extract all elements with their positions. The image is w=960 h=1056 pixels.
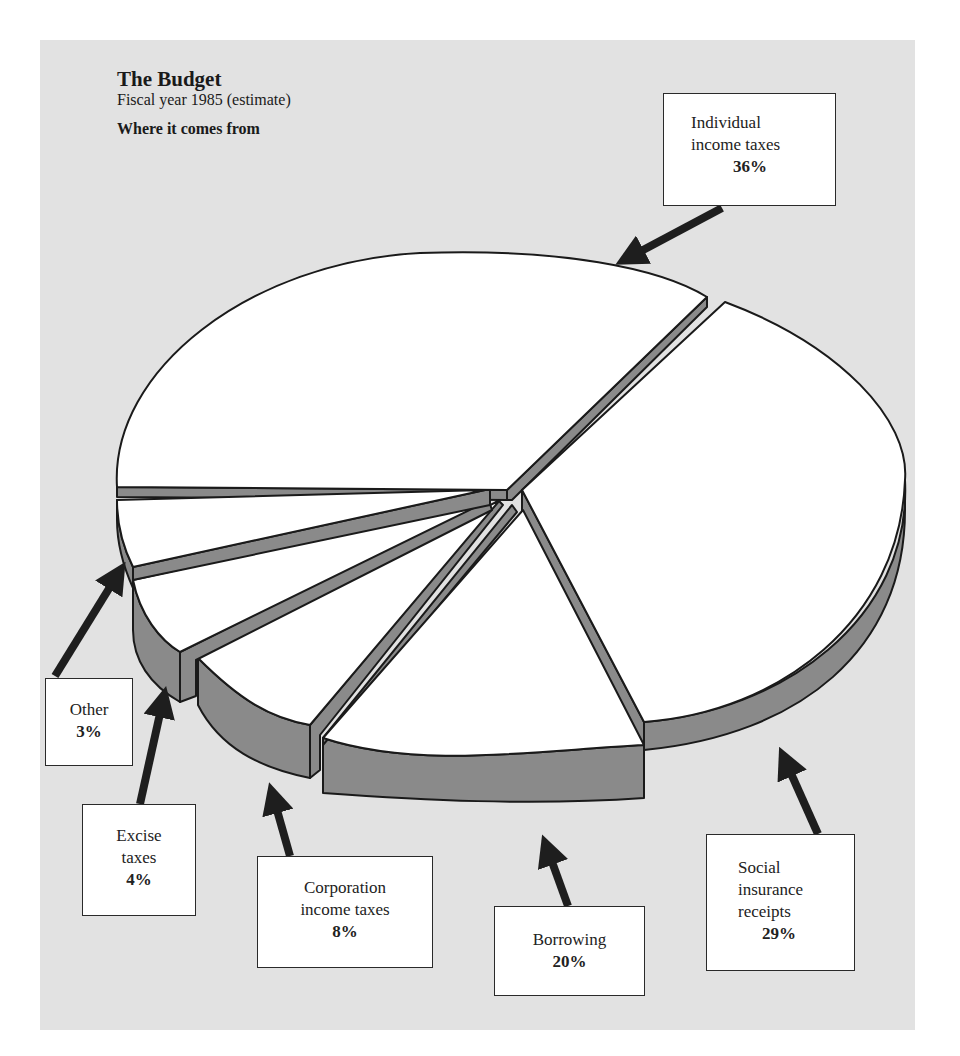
label-name: Corporation income taxes [258, 877, 432, 921]
arrow-individual [628, 208, 722, 258]
arrow-other [55, 574, 118, 676]
label-corporation-income-taxes: Corporation income taxes 8% [257, 856, 433, 968]
label-excise-taxes: Excise taxes 4% [82, 804, 196, 916]
label-name: Other [46, 699, 132, 721]
arrow-social [785, 760, 818, 834]
label-name: Individual income taxes [691, 112, 835, 156]
label-percent: 8% [258, 921, 432, 943]
label-percent: 4% [83, 869, 195, 891]
label-percent: 36% [691, 156, 835, 178]
label-percent: 20% [495, 951, 644, 973]
label-percent: 29% [738, 923, 854, 945]
label-percent: 3% [46, 721, 132, 743]
label-social-insurance-receipts: Social insurance receipts 29% [706, 834, 855, 971]
label-name: Borrowing [495, 929, 644, 951]
label-borrowing: Borrowing 20% [494, 906, 645, 996]
label-other: Other 3% [45, 678, 133, 766]
label-individual-income-taxes: Individual income taxes 36% [663, 93, 836, 206]
label-name: Excise taxes [83, 825, 195, 869]
arrow-borrowing [547, 848, 568, 906]
arrow-excise [140, 700, 163, 804]
arrow-corporation [273, 796, 290, 856]
label-name: Social insurance receipts [738, 857, 854, 923]
